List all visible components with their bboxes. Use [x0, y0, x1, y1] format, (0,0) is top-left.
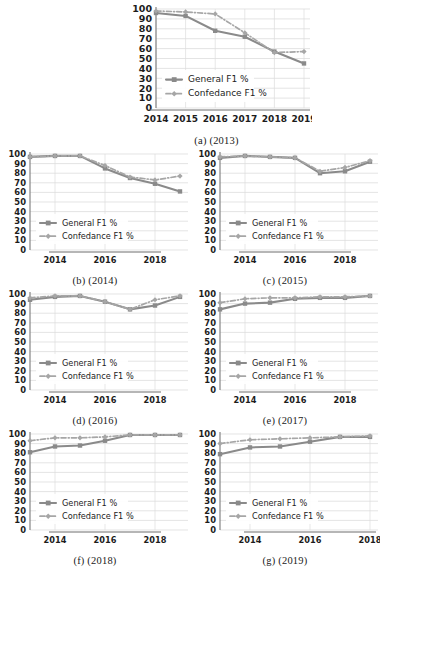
- marker-general: [218, 307, 222, 311]
- x-tick-label-2016: 2016: [202, 114, 227, 124]
- marker-general: [178, 189, 182, 193]
- x-tick-label-2014: 2014: [44, 255, 67, 265]
- chart-caption-f: (f) (2018): [73, 555, 116, 566]
- y-tick-label-0: 0: [210, 245, 216, 255]
- y-tick-label-30: 30: [14, 356, 26, 366]
- chart-row-1: 0102030405060708090100201420152016201720…: [0, 0, 433, 146]
- y-tick-label-100: 100: [199, 429, 217, 439]
- legend-label-confedance: Confedance F1 %: [62, 371, 134, 381]
- y-tick-label-50: 50: [14, 477, 26, 487]
- y-tick-label-30: 30: [14, 496, 26, 506]
- x-tick-label-2018: 2018: [144, 535, 167, 545]
- legend-label-general: General F1 %: [188, 74, 249, 84]
- marker-general: [243, 301, 247, 305]
- y-tick-label-100: 100: [9, 429, 27, 439]
- y-tick-label-40: 40: [138, 63, 152, 74]
- marker-confedance: [277, 436, 282, 441]
- marker-general: [218, 452, 222, 456]
- y-tick-label-60: 60: [138, 43, 152, 54]
- y-tick-label-10: 10: [204, 235, 216, 245]
- y-tick-label-80: 80: [14, 168, 26, 178]
- legend-label-confedance: Confedance F1 %: [252, 231, 324, 241]
- marker-confedance: [77, 435, 82, 440]
- legend-label-general: General F1 %: [252, 218, 307, 228]
- marker-general: [301, 61, 305, 65]
- chart-svg-g: 0102030405060708090100201420162018Genera…: [190, 426, 380, 554]
- x-tick-label-2018: 2018: [334, 255, 357, 265]
- chart-caption-e: (e) (2017): [263, 415, 307, 426]
- marker-confedance: [177, 173, 182, 178]
- chart-caption-g: (g) (2019): [263, 555, 308, 566]
- x-tick-label-2014: 2014: [234, 395, 257, 405]
- y-tick-label-90: 90: [204, 159, 216, 169]
- marker-confedance: [152, 297, 157, 302]
- marker-confedance: [242, 296, 247, 301]
- y-tick-label-0: 0: [20, 385, 26, 395]
- y-tick-label-100: 100: [199, 289, 217, 299]
- chart-caption-c: (c) (2015): [263, 275, 307, 286]
- marker-general: [28, 450, 32, 454]
- x-tick-label-2014: 2014: [44, 395, 67, 405]
- y-tick-label-40: 40: [204, 487, 216, 497]
- y-tick-label-10: 10: [14, 235, 26, 245]
- x-tick-label-2015: 2015: [173, 114, 198, 124]
- x-tick-label-2014: 2014: [44, 535, 67, 545]
- legend-marker-general: [46, 221, 51, 226]
- x-tick-label-2016: 2016: [94, 395, 117, 405]
- y-tick-label-80: 80: [204, 308, 216, 318]
- y-tick-label-20: 20: [204, 506, 216, 516]
- legend-marker-general: [171, 77, 176, 82]
- y-tick-label-70: 70: [14, 318, 26, 328]
- chart-row-3: 0102030405060708090100201420162018Genera…: [0, 286, 433, 426]
- marker-confedance: [217, 300, 222, 305]
- chart-c: 0102030405060708090100201420162018Genera…: [190, 146, 380, 274]
- y-tick-label-40: 40: [204, 207, 216, 217]
- y-tick-label-60: 60: [14, 467, 26, 477]
- legend: General F1 %Confedance F1 %: [36, 354, 134, 384]
- y-tick-label-90: 90: [138, 13, 152, 24]
- legend-label-general: General F1 %: [62, 218, 117, 228]
- chart-cell-g: 0102030405060708090100201420162018Genera…: [190, 426, 380, 566]
- y-tick-label-70: 70: [138, 33, 152, 44]
- y-tick-label-30: 30: [204, 496, 216, 506]
- y-tick-label-50: 50: [204, 197, 216, 207]
- y-tick-label-80: 80: [138, 23, 152, 34]
- chart-svg-e: 0102030405060708090100201420162018Genera…: [190, 286, 380, 414]
- chart-e: 0102030405060708090100201420162018Genera…: [190, 286, 380, 414]
- y-tick-label-90: 90: [204, 439, 216, 449]
- y-tick-label-20: 20: [138, 83, 152, 94]
- y-tick-label-20: 20: [14, 506, 26, 516]
- chart-svg-a: 0102030405060708090100201420152016201720…: [122, 0, 312, 134]
- legend-marker-general: [236, 221, 241, 226]
- x-tick-label-2018: 2018: [334, 395, 357, 405]
- y-tick-label-30: 30: [14, 216, 26, 226]
- y-tick-label-10: 10: [138, 92, 152, 103]
- y-tick-label-10: 10: [204, 515, 216, 525]
- legend-label-confedance: Confedance F1 %: [252, 371, 324, 381]
- marker-confedance: [267, 295, 272, 300]
- y-tick-label-0: 0: [20, 245, 26, 255]
- y-tick-label-100: 100: [132, 3, 152, 14]
- legend: General F1 %Confedance F1 %: [162, 70, 267, 102]
- legend-label-confedance: Confedance F1 %: [62, 511, 134, 521]
- series-line-confedance: [220, 436, 370, 444]
- y-tick-label-70: 70: [14, 458, 26, 468]
- legend: General F1 %Confedance F1 %: [36, 214, 134, 244]
- x-tick-label-2016: 2016: [284, 255, 307, 265]
- y-tick-label-30: 30: [138, 73, 152, 84]
- y-tick-label-30: 30: [204, 356, 216, 366]
- y-tick-label-60: 60: [14, 327, 26, 337]
- series-line-confedance: [156, 11, 304, 53]
- chart-cell-a: 0102030405060708090100201420152016201720…: [122, 0, 312, 146]
- legend-marker-general: [236, 361, 241, 366]
- y-tick-label-0: 0: [145, 102, 152, 113]
- figure-container: 0102030405060708090100201420152016201720…: [0, 0, 433, 653]
- y-tick-label-80: 80: [204, 168, 216, 178]
- chart-cell-d: 0102030405060708090100201420162018Genera…: [0, 286, 190, 426]
- x-tick-label-2014: 2014: [234, 255, 257, 265]
- y-tick-label-50: 50: [138, 53, 152, 64]
- y-tick-label-80: 80: [14, 448, 26, 458]
- chart-cell-c: 0102030405060708090100201420162018Genera…: [190, 146, 380, 286]
- y-tick-label-90: 90: [204, 299, 216, 309]
- y-tick-label-80: 80: [14, 308, 26, 318]
